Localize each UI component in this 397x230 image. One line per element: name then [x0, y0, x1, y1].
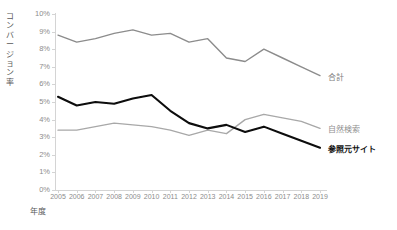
legend-item-1: 自然検索: [328, 123, 360, 134]
plot-area: [0, 0, 397, 230]
conversion-rate-line-chart: コンバージョン率 年度 10%9%8%7%6%5%4%3%2%1%0% 2005…: [0, 0, 397, 230]
series-line-2: [58, 95, 320, 148]
legend-item-2: 参照元サイト: [328, 143, 376, 154]
series-line-0: [58, 30, 320, 76]
legend-item-0: 合計: [328, 71, 344, 82]
